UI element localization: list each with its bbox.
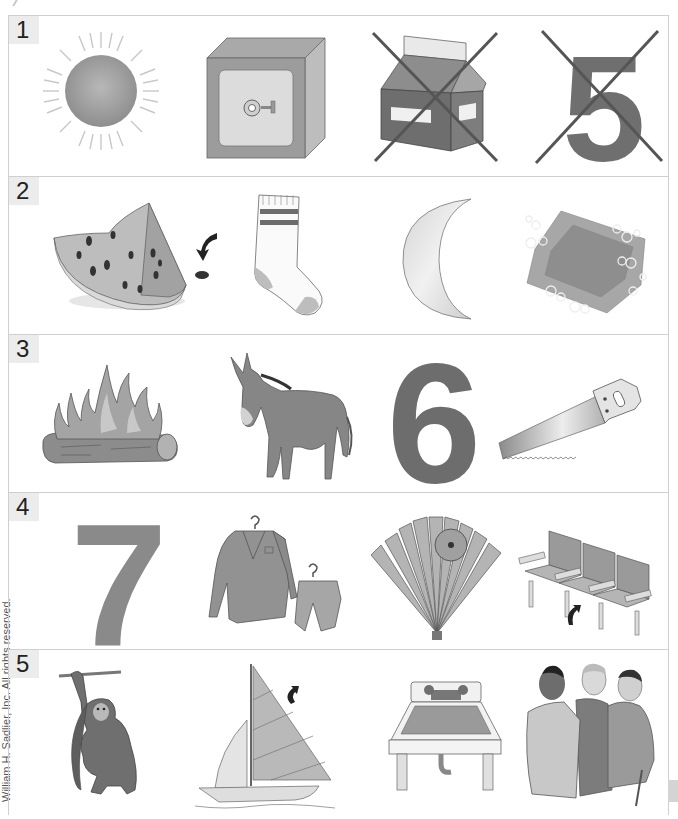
monkey-picture[interactable]	[57, 662, 157, 802]
fan-picture[interactable]	[369, 515, 504, 640]
worksheet-panel: 1	[8, 15, 669, 815]
corner-mark	[12, 0, 25, 6]
suit-picture[interactable]	[209, 513, 344, 638]
number-7-picture[interactable]: 7	[69, 507, 169, 647]
number-6-picture[interactable]: 6	[389, 347, 479, 487]
men-picture[interactable]	[524, 660, 664, 810]
numeral: 5	[562, 25, 645, 193]
fire-picture[interactable]	[41, 363, 181, 473]
row-4: 4 7	[9, 492, 668, 649]
milk-carton-picture[interactable]	[371, 31, 499, 166]
row-3: 3 6	[9, 334, 668, 492]
safe-picture[interactable]	[207, 38, 327, 160]
sail-picture[interactable]	[195, 660, 340, 815]
sock-picture[interactable]	[247, 195, 327, 325]
row-number: 1	[9, 16, 39, 44]
sun-picture[interactable]	[41, 26, 161, 156]
row-number: 5	[9, 650, 39, 678]
mule-picture[interactable]	[221, 347, 351, 487]
soap-picture[interactable]	[521, 199, 651, 317]
row-number: 4	[9, 493, 39, 521]
number-5-picture[interactable]: 5	[534, 31, 664, 166]
row-number: 2	[9, 177, 39, 205]
row-5: 5	[9, 649, 668, 819]
page-edge-tab	[668, 780, 678, 802]
seat-picture[interactable]	[519, 527, 659, 637]
watermelon-seed-picture[interactable]	[49, 193, 219, 323]
sink-picture[interactable]	[387, 680, 505, 792]
saw-picture[interactable]	[497, 375, 647, 465]
numeral: 6	[387, 328, 482, 518]
row-1: 1	[9, 16, 668, 176]
moon-picture[interactable]	[401, 197, 491, 322]
row-2: 2	[9, 176, 668, 334]
row-number: 3	[9, 335, 39, 363]
